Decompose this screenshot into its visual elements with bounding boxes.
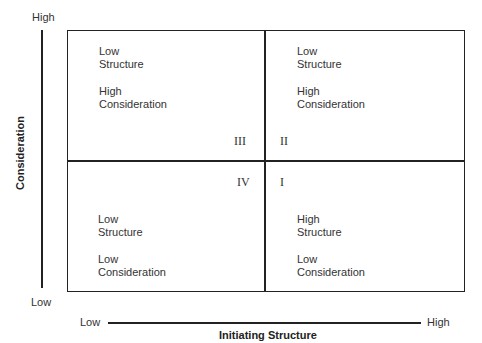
y-axis-title: Consideration bbox=[14, 116, 26, 190]
quadrant-iii-numeral: III bbox=[234, 134, 246, 149]
y-axis-high-label: High bbox=[32, 11, 55, 23]
quadrant-i-consideration: Consideration bbox=[297, 266, 365, 279]
quadrant-ii-consideration: Consideration bbox=[297, 98, 365, 111]
quadrant-iv-consideration: Consideration bbox=[98, 266, 166, 279]
quadrant-iii-consideration-level: High bbox=[99, 85, 167, 98]
quadrant-iii-consideration: Consideration bbox=[99, 98, 167, 111]
quadrant-ii-text: Low Structure High Consideration bbox=[297, 45, 365, 111]
x-axis-title: Initiating Structure bbox=[219, 329, 317, 341]
x-axis-line bbox=[108, 322, 421, 324]
quadrant-iv-text: Low Structure Low Consideration bbox=[98, 213, 166, 279]
quadrant-iv-numeral: IV bbox=[237, 175, 250, 190]
quadrant-ii-consideration-level: High bbox=[297, 85, 365, 98]
y-axis-low-label: Low bbox=[31, 296, 51, 308]
x-axis-high-label: High bbox=[427, 316, 450, 328]
quadrant-i-text: High Structure Low Consideration bbox=[297, 213, 365, 279]
quadrant-iv-consideration-level: Low bbox=[98, 253, 166, 266]
quadrant-i-structure-level: High bbox=[297, 213, 365, 226]
x-axis-low-label: Low bbox=[80, 316, 100, 328]
quadrant-i-consideration-level: Low bbox=[297, 253, 365, 266]
quadrant-iii-structure-level: Low bbox=[99, 45, 167, 58]
y-axis-line bbox=[41, 30, 43, 288]
quadrant-iv-structure-level: Low bbox=[98, 213, 166, 226]
quadrant-iv-structure: Structure bbox=[98, 226, 166, 239]
quadrant-ii-numeral: II bbox=[280, 134, 288, 149]
grid-horizontal-divider bbox=[67, 160, 465, 162]
quadrant-iii-structure: Structure bbox=[99, 58, 167, 71]
quadrant-i-structure: Structure bbox=[297, 226, 365, 239]
quadrant-i-numeral: I bbox=[280, 175, 284, 190]
quadrant-ii-structure: Structure bbox=[297, 58, 365, 71]
quadrant-ii-structure-level: Low bbox=[297, 45, 365, 58]
quadrant-iii-text: Low Structure High Consideration bbox=[99, 45, 167, 111]
